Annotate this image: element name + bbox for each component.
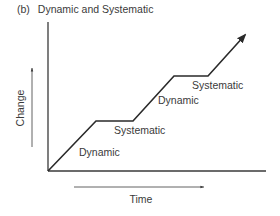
segment-label-dynamic-1: Dynamic — [79, 146, 120, 158]
segment-label-dynamic-2: Dynamic — [158, 94, 199, 106]
y-axis-label: Change — [14, 89, 26, 126]
dynamic-systematic-diagram: Change Time Dynamic Systematic Dynamic S… — [0, 0, 280, 216]
segment-label-systematic-2: Systematic — [192, 79, 243, 91]
x-axis-label: Time — [130, 193, 153, 205]
change-path — [48, 35, 245, 171]
segment-label-systematic-1: Systematic — [114, 124, 165, 136]
